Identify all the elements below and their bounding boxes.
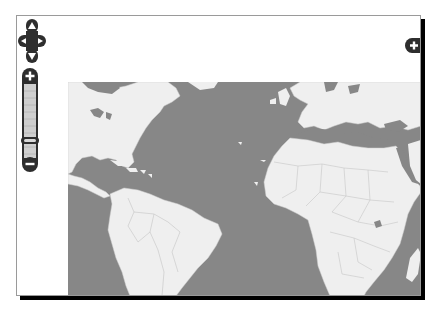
- map-canvas[interactable]: [68, 82, 421, 296]
- pan-up-button[interactable]: [26, 19, 38, 33]
- world-map[interactable]: [68, 82, 421, 296]
- zoom-out-button[interactable]: [23, 157, 37, 171]
- pan-center: [26, 31, 38, 51]
- zoom-slider-handle[interactable]: [21, 137, 39, 144]
- pan-down-button[interactable]: [26, 49, 38, 63]
- zoom-slider-track[interactable]: [24, 84, 36, 158]
- zoom-control: [21, 68, 39, 172]
- zoom-in-button[interactable]: [23, 69, 37, 83]
- layer-switcher-button[interactable]: [405, 38, 421, 53]
- map-viewport[interactable]: [16, 15, 421, 296]
- pan-control: [17, 18, 47, 66]
